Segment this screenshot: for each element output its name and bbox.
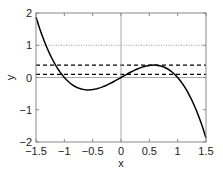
- x-tick-label: 0: [118, 145, 124, 157]
- y-tick-label: 1: [26, 39, 32, 51]
- x-tick-label: −1: [58, 145, 71, 157]
- x-tick-label: −0.5: [82, 145, 104, 157]
- y-axis-label: y: [4, 74, 16, 80]
- y-tick-label: −2: [19, 136, 32, 148]
- x-tick-labels: −1.5−1−0.500.511.5: [25, 145, 214, 157]
- x-tick-label: 0.5: [142, 145, 157, 157]
- y-tick-label: 2: [26, 7, 32, 19]
- y-tick-labels: −2−1012: [19, 7, 32, 148]
- y-tick-label: 0: [26, 72, 32, 84]
- x-axis-label: x: [118, 157, 124, 169]
- x-tick-label: 1.5: [198, 145, 213, 157]
- line-chart: −1.5−1−0.500.511.5 −2−1012 x y: [0, 0, 223, 172]
- x-tick-label: 1: [175, 145, 181, 157]
- y-tick-label: −1: [19, 104, 32, 116]
